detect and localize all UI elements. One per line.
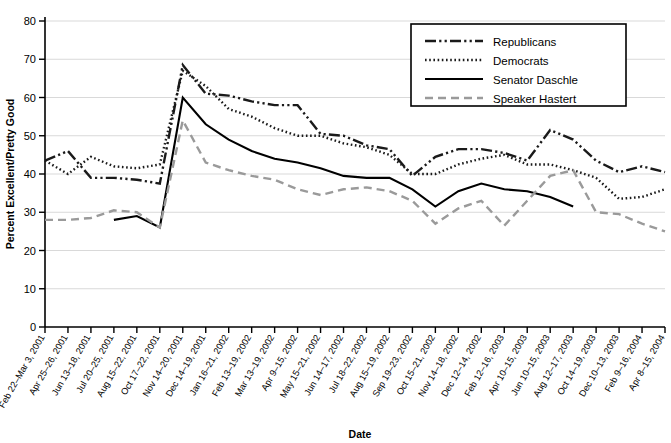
y-tick-label: 70 [24,53,36,65]
legend-label: Speaker Hastert [493,93,577,105]
y-axis-ticks: 01020304050607080 [24,15,45,333]
legend-label: Democrats [493,55,549,67]
x-axis-ticks [45,327,665,333]
y-tick-label: 80 [24,15,36,27]
x-axis-tick-labels: Feb 22–Mar 3, 2001Apr 25–26, 2001Jun 13–… [0,333,667,410]
y-tick-label: 20 [24,245,36,257]
y-tick-label: 40 [24,168,36,180]
legend: RepublicansDemocratsSenator DaschleSpeak… [411,24,626,106]
y-tick-label: 30 [24,206,36,218]
y-tick-label: 0 [30,321,36,333]
chart-container: 01020304050607080 Feb 22–Mar 3, 2001Apr … [0,0,671,443]
y-tick-label: 10 [24,283,36,295]
x-axis-title: Date [349,428,372,440]
y-axis-title: Percent Excellent/Pretty Good [4,99,16,250]
legend-label: Republicans [493,36,557,48]
line-chart: 01020304050607080 Feb 22–Mar 3, 2001Apr … [0,0,671,443]
y-tick-label: 50 [24,130,36,142]
y-tick-label: 60 [24,92,36,104]
series-line-senator-daschle [114,98,573,228]
legend-label: Senator Daschle [493,74,578,86]
